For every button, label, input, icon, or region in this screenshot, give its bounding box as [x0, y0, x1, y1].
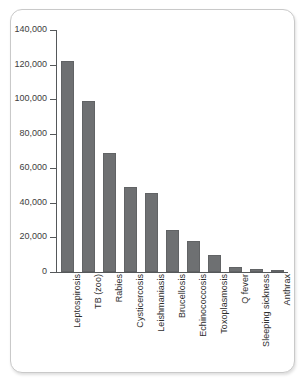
x-axis-line [56, 272, 288, 273]
y-tick-label: 140,000 [14, 24, 47, 34]
y-tick-mark [50, 99, 56, 100]
y-tick-label: 100,000 [14, 93, 47, 103]
bar [103, 153, 116, 272]
y-tick-mark [50, 203, 56, 204]
y-tick-mark [50, 168, 56, 169]
x-tick-label: Leishmaniasis [156, 274, 166, 332]
bar [187, 241, 200, 272]
bar [208, 255, 221, 272]
x-tick-label: Cysticercosis [135, 274, 145, 328]
bar [82, 101, 95, 272]
x-tick-label: Brucellosis [177, 274, 187, 318]
x-tick-label: Leptospirosis [72, 274, 82, 328]
x-axis-labels: LeptospirosisTB (zoo)RabiesCysticercosis… [57, 274, 288, 370]
chart-card: 020,00040,00060,00080,000100,000120,0001… [10, 9, 295, 373]
y-tick-label: 20,000 [19, 231, 47, 241]
x-tick-label: Echinococcosis [198, 274, 208, 337]
bar [61, 61, 74, 272]
bar [166, 230, 179, 272]
y-tick-label: 40,000 [19, 197, 47, 207]
x-tick-label: Rabies [114, 274, 124, 302]
x-tick-label: Anthrax [282, 274, 292, 305]
x-tick-label: Sleeping sickness [261, 274, 271, 347]
y-tick-mark [50, 65, 56, 66]
bar [124, 187, 137, 272]
y-tick-mark [50, 30, 56, 31]
bars-group [57, 30, 288, 272]
x-tick-label: Toxoplasmosis [219, 274, 229, 334]
y-tick-label: 60,000 [19, 162, 47, 172]
y-tick-mark [50, 272, 56, 273]
bar [145, 193, 158, 273]
y-tick-mark [50, 134, 56, 135]
y-tick-label: 80,000 [19, 128, 47, 138]
x-tick-label: Q fever [240, 274, 250, 304]
y-tick-label: 120,000 [14, 59, 47, 69]
y-tick-mark [50, 237, 56, 238]
y-tick-label: 0 [42, 266, 47, 276]
bar-chart: 020,00040,00060,00080,000100,000120,0001… [11, 10, 296, 374]
bar [250, 269, 263, 272]
x-tick-label: TB (zoo) [93, 274, 103, 309]
bar [271, 270, 284, 272]
bar [229, 267, 242, 272]
